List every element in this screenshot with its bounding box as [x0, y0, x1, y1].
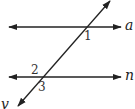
parallel-lines-transversal-diagram: [0, 0, 135, 109]
angle-2-label: 2: [31, 64, 39, 76]
line-v-label: v: [1, 97, 9, 109]
line-n-label: n: [125, 68, 134, 82]
line-a-label: a: [125, 18, 133, 32]
angle-3-label: 3: [38, 81, 46, 93]
transversal-v: [18, 1, 110, 106]
angle-1-label: 1: [84, 30, 92, 42]
